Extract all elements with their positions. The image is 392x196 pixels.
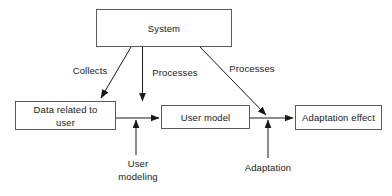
edge-label-adaptation: Adaptation [236, 162, 300, 175]
node-system: System [96, 9, 232, 47]
node-data-related-to-user-label: Data related to user [34, 103, 98, 129]
node-data-related-to-user: Data related to user [15, 101, 116, 130]
node-user-model: User model [161, 105, 250, 129]
edge-label-user-modeling: User modeling [110, 158, 166, 183]
diagram-canvas: System Data related to user User model A… [0, 0, 392, 196]
edge-label-processes-user-model: Processes [146, 67, 204, 80]
node-adaptation-effect-label: Adaptation effect [302, 111, 375, 124]
node-system-label: System [148, 22, 180, 35]
edge-label-processes-adaptation-effect: Processes [223, 63, 281, 76]
node-user-model-label: User model [181, 111, 231, 124]
edge-label-collects: Collects [62, 65, 118, 78]
node-adaptation-effect: Adaptation effect [295, 105, 382, 130]
